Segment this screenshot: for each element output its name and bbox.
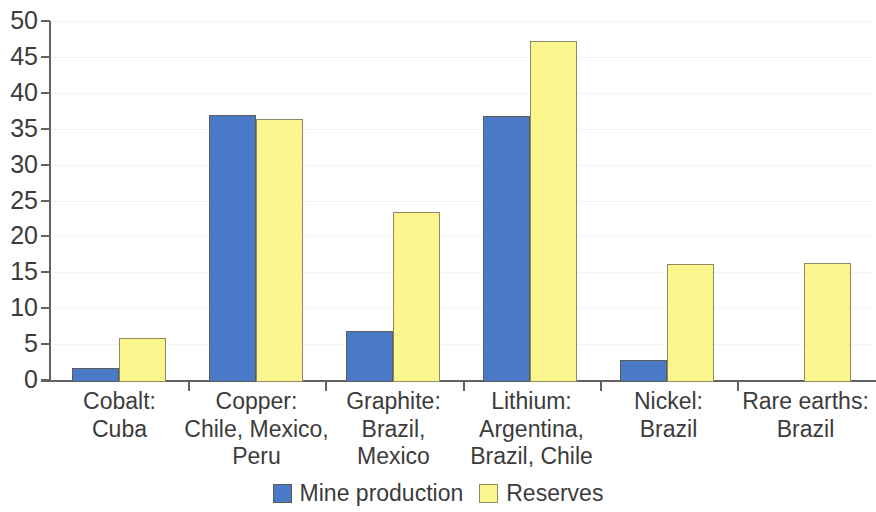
chart-legend: Mine productionReserves — [0, 482, 876, 505]
bar-mine-production — [620, 360, 667, 382]
y-axis-tick — [41, 343, 50, 345]
y-axis-tick — [41, 56, 50, 58]
y-axis-tick-label: 40 — [0, 80, 38, 105]
bar-reserves — [393, 212, 440, 382]
x-axis-category-label: Graphite: Brazil, Mexico — [319, 388, 468, 471]
bar-reserves — [804, 263, 851, 382]
y-axis-tick — [41, 92, 50, 94]
y-axis-tick-label: 30 — [0, 152, 38, 177]
x-axis-category-label: Cobalt: Cuba — [45, 388, 194, 443]
bar-mine-production — [483, 116, 530, 382]
x-axis-category-label: Rare earths: Brazil — [731, 388, 876, 443]
x-axis-category-label: Lithium: Argentina, Brazil, Chile — [457, 388, 606, 471]
bar-mine-production — [72, 368, 119, 382]
y-axis-tick-label: 5 — [0, 331, 38, 356]
y-axis-tick — [41, 271, 50, 273]
y-axis-tick-label: 25 — [0, 188, 38, 213]
plot-area — [50, 22, 870, 381]
y-axis-tick — [41, 235, 50, 237]
bar-reserves — [530, 41, 577, 382]
bar-chart: 05101520253035404550 Cobalt: CubaCopper:… — [0, 0, 876, 512]
bar-mine-production — [209, 115, 256, 382]
y-axis-tick-label: 10 — [0, 295, 38, 320]
y-axis-tick — [41, 164, 50, 166]
legend-swatch-mine-icon — [273, 484, 292, 503]
legend-item[interactable]: Mine production — [273, 482, 464, 505]
bar-reserves — [256, 119, 303, 382]
x-axis-category-label: Copper: Chile, Mexico, Peru — [182, 388, 331, 471]
x-axis-category-label: Nickel: Brazil — [594, 388, 743, 443]
y-axis-tick-label: 0 — [0, 367, 38, 392]
legend-swatch-reserves-icon — [479, 484, 498, 503]
y-axis-tick-label: 50 — [0, 8, 38, 33]
y-axis-tick-label: 35 — [0, 116, 38, 141]
legend-label: Reserves — [506, 482, 603, 505]
y-axis-tick-label: 20 — [0, 223, 38, 248]
y-axis-tick — [41, 20, 50, 22]
y-axis-tick — [41, 128, 50, 130]
legend-item[interactable]: Reserves — [479, 482, 603, 505]
bar-reserves — [667, 264, 714, 382]
y-axis-tick-label: 45 — [0, 44, 38, 69]
y-axis-tick-label: 15 — [0, 259, 38, 284]
y-axis-tick — [41, 307, 50, 309]
y-axis-tick — [41, 379, 50, 381]
y-axis-tick — [41, 200, 50, 202]
bar-reserves — [119, 338, 166, 382]
bar-mine-production — [346, 331, 393, 382]
legend-label: Mine production — [300, 482, 464, 505]
